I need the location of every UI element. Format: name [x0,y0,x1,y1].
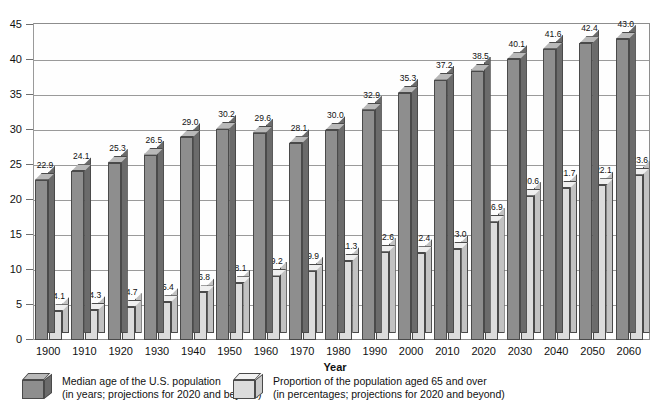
bar-side [425,239,432,333]
value-label-2040-series0: 41.6 [541,30,565,39]
x-tick-label-2040: 2040 [538,345,574,357]
bar-face [325,130,338,340]
bar-side [375,96,382,333]
y-tick-mark [26,24,33,25]
y-tick-label: 0 [0,334,22,345]
value-label-2000-series0: 35.3 [396,74,420,83]
bar-side [121,149,128,333]
x-tick-label-2050: 2050 [574,345,610,357]
bar-2020-series0 [471,71,484,341]
value-label-1990-series0: 32.9 [360,91,384,100]
bar-side [447,66,454,333]
x-tick-label-1950: 1950 [211,345,247,357]
bar-side [84,157,91,333]
x-tick-label-1900: 1900 [30,345,66,357]
bar-1900-series0 [35,180,48,340]
legend-label-median-age-line2: (in years; projections for 2020 and beyo… [62,388,262,400]
cube-light-icon [233,373,263,399]
bar-1930-series0 [144,155,157,341]
bar-side [266,119,273,333]
y-tick-mark [26,59,33,60]
y-tick-label: 30 [0,124,22,135]
y-axis-line [33,23,34,340]
y-tick-mark [26,234,33,235]
y-tick-label: 10 [0,264,22,275]
bar-face [471,71,484,341]
bar-1920-series0 [108,163,121,340]
value-label-1920-series0: 25.3 [106,144,130,153]
x-tick-label-1940: 1940 [175,345,211,357]
y-tick-label: 5 [0,299,22,310]
value-label-2010-series0: 37.2 [432,61,456,70]
value-label-2030-series0: 40.1 [505,40,529,49]
chart-legend: Median age of the U.S. population (in ye… [0,371,663,411]
y-tick-mark [26,94,33,95]
bar-side [606,171,613,333]
bar-face [507,59,520,340]
bar-1990-series0 [362,110,375,340]
y-tick-label: 45 [0,19,22,30]
bar-face [434,80,447,340]
bar-side [389,238,396,333]
x-tick-label-1920: 1920 [103,345,139,357]
bar-side [484,57,491,334]
bar-side [534,182,541,333]
y-tick-mark [26,304,33,305]
bar-side [62,297,69,333]
bar-1910-series0 [71,171,84,340]
bar-chart: 051015202530354045 4.122.94.324.14.725.3… [0,0,663,411]
bar-2010-series0 [434,80,447,340]
y-tick-label: 40 [0,54,22,65]
y-tick-mark [26,269,33,270]
bar-face [579,43,592,340]
bar-face [35,180,48,340]
x-tick-label-2060: 2060 [611,345,647,357]
bar-side [411,79,418,333]
y-tick-mark [26,129,33,130]
value-label-2060-series0: 43.0 [614,20,638,29]
x-tick-label-2000: 2000 [393,345,429,357]
value-label-1950-series0: 30.2 [214,110,238,119]
bar-face [108,163,121,340]
bar-side [157,141,164,334]
bar-face [398,93,411,340]
x-tick-label-2020: 2020 [466,345,502,357]
bar-1970-series0 [289,143,302,340]
x-tick-label-1970: 1970 [284,345,320,357]
x-tick-label-1990: 1990 [357,345,393,357]
x-tick-label-1910: 1910 [66,345,102,357]
bar-face [144,155,157,341]
bar-2000-series0 [398,93,411,340]
bars-layer: 4.122.94.324.14.725.35.426.56.829.08.130… [33,23,650,340]
bar-side [193,123,200,333]
bar-2040-series0 [543,49,556,340]
legend-label-proportion-65-line1: Proportion of the population aged 65 and… [273,375,487,387]
bar-2050-series0 [579,43,592,340]
y-tick-mark [26,164,33,165]
y-tick-label: 20 [0,194,22,205]
bar-face [216,129,229,340]
bar-side [520,45,527,333]
bar-face [362,110,375,340]
y-tick-label: 35 [0,89,22,100]
bar-face [616,39,629,340]
legend-label-proportion-65-line2: (in percentages; projections for 2020 an… [273,388,505,400]
bar-face [71,171,84,340]
bar-face [543,49,556,340]
bar-side [302,129,309,333]
value-label-1900-series0: 22.9 [33,161,57,170]
bar-side [629,25,636,333]
bar-side [498,208,505,333]
bar-side [48,166,55,333]
bar-face [180,137,193,340]
y-tick-mark [26,339,33,340]
bar-side [643,161,650,333]
bar-face [253,133,266,340]
bar-side [461,235,468,333]
legend-label-median-age-line1: Median age of the U.S. population [62,375,221,387]
value-label-2050-series0: 42.4 [577,24,601,33]
x-tick-label-1960: 1960 [248,345,284,357]
bar-face [289,143,302,340]
value-label-1960-series0: 29.6 [251,114,275,123]
bar-2060-series0 [616,39,629,340]
